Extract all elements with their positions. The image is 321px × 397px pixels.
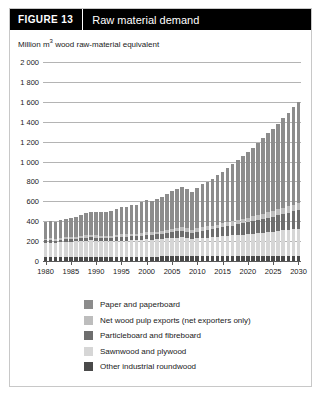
x-axis-tick [197,262,198,265]
y-axis-tick-label: 1 400 [20,117,39,126]
bar-segment [266,232,270,256]
bar [115,209,119,261]
bar-segment [59,220,63,238]
bar-segment [236,235,240,256]
bar [246,152,250,261]
x-axis-tick-label: 1985 [62,267,79,276]
bar [221,172,225,261]
x-axis-tick [298,262,299,265]
bar [236,160,240,261]
x-axis-tick-label: 2025 [265,267,282,276]
y-axis-tick-label: 0 [35,257,39,266]
bar-segment [206,230,210,238]
bar-segment [180,231,184,238]
bar-segment [297,210,301,229]
bar-segment [79,215,83,236]
bar [94,212,98,261]
bar-segment [109,211,113,236]
bar-series-group [43,62,301,261]
bar [216,175,220,261]
bar [276,124,280,262]
chart-legend: Paper and paperboardNet wood pulp export… [84,297,304,375]
axis-unit-caption: Million m3 wood raw-material equivalent [18,40,159,49]
bar-segment [94,212,98,236]
bar-segment [84,241,88,257]
x-axis-tick-label: 1980 [37,267,54,276]
bar [185,189,189,261]
bar-segment [246,152,250,218]
bar-segment [281,214,285,231]
bar-segment [261,233,265,256]
bar [160,197,164,261]
bar-segment [130,205,134,234]
legend-item: Other industrial roundwood [84,359,304,375]
bar-segment [89,240,93,256]
bar-segment [155,239,159,256]
bar-segment [246,222,250,234]
bar-segment [64,242,68,257]
bar-segment [170,191,174,228]
legend-color-swatch [84,300,93,309]
bar-segment [74,217,78,237]
bar-segment [271,217,275,232]
bar [256,143,260,261]
bar-segment [74,241,78,256]
bar [297,102,301,261]
bar [140,202,144,261]
bar [145,200,149,261]
x-axis-tick-label: 2005 [164,267,181,276]
x-axis-tick-label: 2030 [290,267,307,276]
bar-segment [216,237,220,257]
bar-segment [266,133,270,212]
legend-item-label: Sawnwood and plywood [93,347,186,356]
bar [135,204,139,261]
bar-segment [115,241,119,257]
bar [170,191,174,261]
bar-segment [276,231,280,256]
bar-segment [251,221,255,233]
bar [190,192,194,261]
bar [84,213,88,261]
bar-segment [276,124,280,210]
bar [266,133,270,261]
bar-segment [226,236,230,256]
legend-item-label: Net wood pulp exports (net exporters onl… [93,316,251,325]
bar-segment [271,129,275,211]
bar [292,107,296,261]
bar-segment [175,238,179,257]
y-axis-tick-label: 400 [26,217,39,226]
bar-segment [160,197,164,231]
bar [251,148,255,261]
bar-segment [221,236,225,256]
legend-item-label: Other industrial roundwood [93,362,196,371]
bar-segment [145,200,149,232]
bar [165,194,169,261]
bar-segment [231,164,235,221]
bar [74,217,78,261]
figure-container: FIGURE 13 Raw material demand Million m3… [9,8,312,387]
bar [211,179,215,261]
bar [49,221,53,261]
bar-segment [190,239,194,256]
legend-color-swatch [84,347,93,356]
bar-segment [120,241,124,257]
bar [271,128,275,261]
bar-segment [297,102,301,203]
bar-segment [287,230,291,256]
bar-segment [180,187,184,227]
figure-title: Raw material demand [83,14,199,26]
bar-segment [195,238,199,256]
bar-segment [195,232,199,239]
bar-segment [287,213,291,230]
x-axis-ticks [43,262,301,266]
bar-segment [140,202,144,233]
bar-segment [297,229,301,256]
bar-segment [130,240,134,256]
bar-segment [94,241,98,257]
bar-segment [292,229,296,255]
bar-segment [287,113,291,207]
bar-segment [241,223,245,234]
bar-segment [54,243,58,257]
bar-segment [221,227,225,236]
bar [54,222,58,261]
